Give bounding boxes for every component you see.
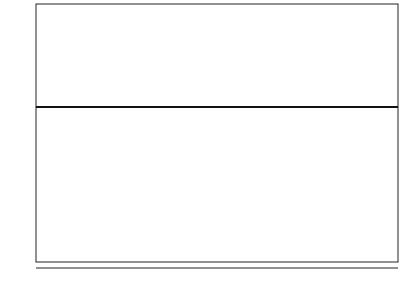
chart-figure: [0, 0, 400, 293]
frame: [36, 4, 398, 262]
bottom-panel-axes: [36, 113, 398, 268]
